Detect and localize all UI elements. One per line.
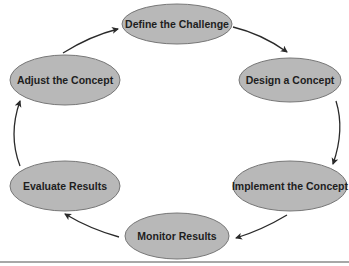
arrow-adjust-to-define bbox=[63, 29, 118, 53]
node-label: Evaluate Results bbox=[23, 180, 107, 192]
node-label: Monitor Results bbox=[137, 230, 216, 242]
node-label: Adjust the Concept bbox=[17, 74, 114, 86]
arrow-monitor-to-evaluate bbox=[65, 214, 119, 237]
node-define-the-challenge: Define the Challenge bbox=[122, 4, 232, 44]
arrow-implement-to-monitor bbox=[236, 215, 287, 238]
node-label: Implement the Concept bbox=[232, 180, 349, 192]
node-monitor-results: Monitor Results bbox=[125, 213, 229, 259]
node-design-a-concept: Design a Concept bbox=[239, 58, 341, 102]
cycle-diagram: Define the Challenge Design a Concept Im… bbox=[0, 0, 349, 266]
arrow-define-to-design bbox=[233, 27, 287, 52]
node-evaluate-results: Evaluate Results bbox=[10, 161, 120, 211]
arrow-design-to-implement bbox=[333, 101, 340, 164]
node-label: Define the Challenge bbox=[125, 18, 229, 30]
arrow-evaluate-to-adjust bbox=[14, 101, 20, 166]
node-adjust-the-concept: Adjust the Concept bbox=[10, 55, 120, 105]
node-implement-the-concept: Implement the Concept bbox=[232, 161, 349, 211]
node-label: Design a Concept bbox=[246, 74, 335, 86]
